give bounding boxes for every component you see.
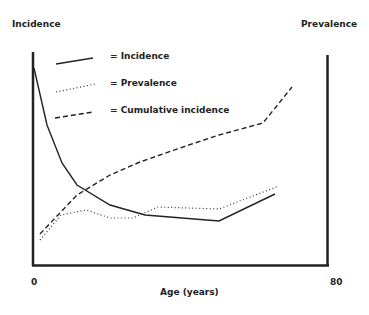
legend-dashed-line xyxy=(55,112,93,118)
incidence-series xyxy=(34,68,275,221)
legend-solid-line xyxy=(56,58,93,64)
legend-prevalence-label: = Prevalence xyxy=(110,78,177,88)
legend-cumulative-label: = Cumulative incidence xyxy=(110,105,229,115)
legend-incidence-label: = Incidence xyxy=(110,51,169,61)
x-tick-min: 0 xyxy=(31,277,37,287)
chart-plot xyxy=(0,0,369,315)
x-tick-max: 80 xyxy=(330,277,343,287)
x-axis-label: Age (years) xyxy=(160,287,219,297)
legend-dotted-line xyxy=(56,84,95,92)
prevalence-series xyxy=(40,186,279,240)
